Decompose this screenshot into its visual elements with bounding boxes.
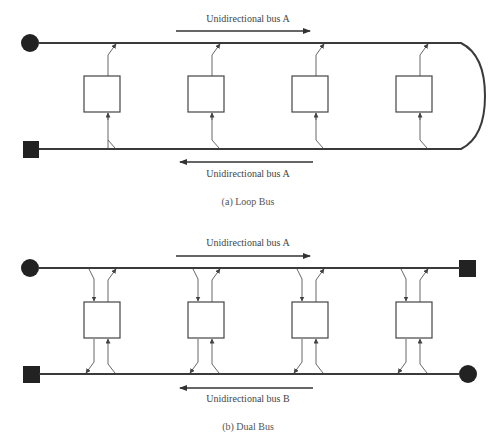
loop-bus-top-label: Unidirectional bus A xyxy=(206,13,289,24)
loop-bus-caption: (a) Loop Bus xyxy=(222,196,275,207)
terminator-square xyxy=(459,260,476,277)
loop-station-2 xyxy=(188,44,224,148)
dual-station-1 xyxy=(84,269,120,373)
dual-station-4 xyxy=(396,269,432,373)
terminator-square xyxy=(23,366,40,383)
terminator-square xyxy=(23,141,39,158)
dual-bus-caption: (b) Dual Bus xyxy=(222,421,274,432)
dual-bus-bottom-label: Unidirectional bus B xyxy=(206,393,289,404)
terminator-circle xyxy=(459,365,477,383)
terminator-circle xyxy=(21,34,39,52)
loop-station-3 xyxy=(292,44,328,148)
loop-station-4 xyxy=(396,44,432,148)
dual-station-3 xyxy=(292,269,328,373)
loop-station-1 xyxy=(84,44,120,148)
loop-bus-bottom-label: Unidirectional bus A xyxy=(206,168,289,179)
terminator-circle xyxy=(21,259,39,277)
loop-bus-diagram xyxy=(21,31,485,162)
dual-station-2 xyxy=(188,269,224,373)
dual-bus-top-label: Unidirectional bus A xyxy=(206,237,289,248)
dual-bus-diagram xyxy=(21,256,477,388)
bus-topology-diagram xyxy=(0,0,500,440)
